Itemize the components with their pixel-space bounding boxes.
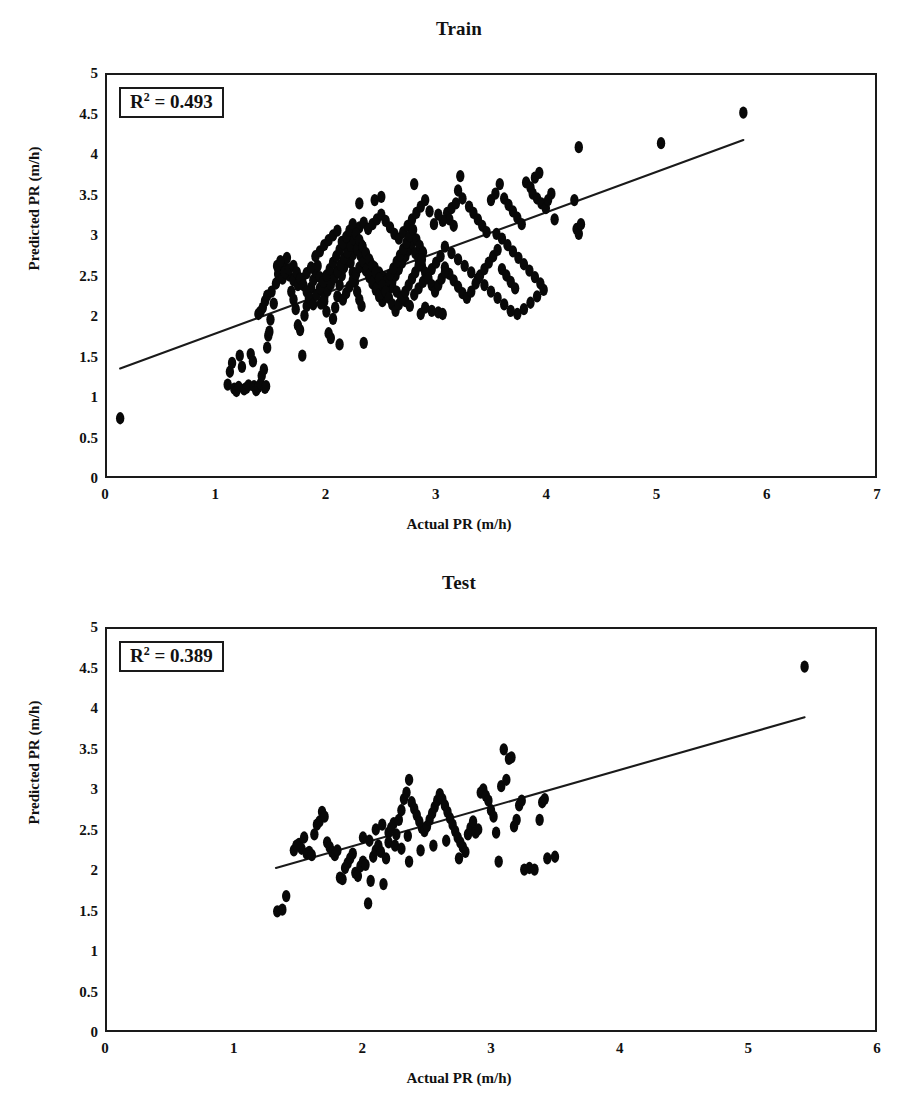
y-axis-ticks-train: 00.511.522.533.544.55 <box>58 73 98 478</box>
y-tick-label: 5 <box>91 619 99 636</box>
data-point <box>570 194 578 206</box>
data-point <box>278 904 286 916</box>
data-point <box>404 830 412 842</box>
data-point <box>456 170 464 182</box>
y-tick-label: 0 <box>91 470 99 487</box>
data-point <box>436 250 444 262</box>
x-tick-label: 6 <box>873 1040 881 1057</box>
y-tick-label: 4.5 <box>79 659 98 676</box>
data-point <box>357 300 365 312</box>
data-point <box>739 107 747 119</box>
data-point <box>405 855 413 867</box>
data-point <box>544 194 552 206</box>
data-point <box>577 218 585 230</box>
data-point <box>489 811 497 823</box>
x-tick-label: 0 <box>101 486 109 503</box>
data-point <box>429 839 437 851</box>
data-point <box>307 261 315 273</box>
data-point <box>541 793 549 805</box>
data-point <box>335 338 343 350</box>
panel-title-train: Train <box>0 18 918 40</box>
data-point <box>298 350 306 362</box>
r2-value: = 0.389 <box>150 645 213 666</box>
data-point <box>500 743 508 755</box>
data-point <box>360 337 368 349</box>
x-tick-label: 4 <box>542 486 550 503</box>
x-tick-label: 2 <box>359 1040 367 1057</box>
data-point <box>228 357 236 369</box>
data-point <box>511 282 519 294</box>
scatter-canvas-test <box>107 629 875 1030</box>
data-point <box>439 308 447 320</box>
data-point <box>455 852 463 864</box>
data-point <box>355 197 363 209</box>
y-tick-label: 0.5 <box>79 983 98 1000</box>
x-axis-label-train: Actual PR (m/h) <box>0 516 918 533</box>
x-tick-label: 1 <box>212 486 220 503</box>
x-axis-ticks-test: 0123456 <box>105 1040 877 1062</box>
trend-line <box>120 140 743 369</box>
y-tick-label: 1 <box>91 389 99 406</box>
y-tick-label: 4 <box>91 700 99 717</box>
data-point <box>535 167 543 179</box>
panel-title-test: Test <box>0 572 918 594</box>
y-tick-label: 4.5 <box>79 105 98 122</box>
data-point <box>329 313 337 325</box>
r2-symbol: R <box>130 91 144 112</box>
data-point <box>292 839 300 851</box>
data-point <box>327 332 335 344</box>
data-point <box>397 843 405 855</box>
y-tick-label: 1 <box>91 943 99 960</box>
y-tick-label: 2.5 <box>79 821 98 838</box>
data-point <box>397 804 405 816</box>
x-tick-label: 0 <box>101 1040 109 1057</box>
data-point <box>116 412 124 424</box>
data-point <box>265 325 273 337</box>
data-point <box>575 141 583 153</box>
y-tick-label: 3.5 <box>79 740 98 757</box>
data-point <box>364 897 372 909</box>
data-point <box>402 786 410 798</box>
data-point <box>249 355 257 367</box>
data-point <box>502 774 510 786</box>
data-point <box>365 835 373 847</box>
data-point <box>493 244 501 256</box>
y-tick-label: 2 <box>91 308 99 325</box>
data-point <box>543 852 551 864</box>
y-tick-label: 0.5 <box>79 429 98 446</box>
trend-line <box>276 717 805 868</box>
panel-test: Test 00.511.522.533.544.55 0123456 R2 = … <box>0 554 918 1108</box>
data-point <box>276 255 284 267</box>
y-tick-label: 1.5 <box>79 348 98 365</box>
y-tick-label: 0 <box>91 1024 99 1041</box>
r2-value: = 0.493 <box>150 91 213 112</box>
data-point <box>452 197 460 209</box>
data-point <box>405 774 413 786</box>
x-axis-label-test: Actual PR (m/h) <box>0 1070 918 1087</box>
y-tick-label: 3 <box>91 227 99 244</box>
data-point <box>512 814 520 826</box>
y-axis-label-test: Predicted PR (m/h) <box>26 633 43 893</box>
y-tick-label: 1.5 <box>79 902 98 919</box>
data-point <box>657 137 665 149</box>
x-tick-label: 7 <box>873 486 881 503</box>
y-tick-label: 3 <box>91 781 99 798</box>
data-point <box>507 751 515 763</box>
data-point <box>300 831 308 843</box>
y-tick-label: 4 <box>91 146 99 163</box>
x-tick-label: 3 <box>432 486 440 503</box>
scatter-figure: Train 00.511.522.533.544.55 01234567 R2 … <box>0 0 918 1108</box>
data-point <box>338 873 346 885</box>
data-point <box>260 363 268 375</box>
data-point <box>535 814 543 826</box>
x-tick-label: 3 <box>487 1040 495 1057</box>
data-point <box>238 361 246 373</box>
r2-annotation-test: R2 = 0.389 <box>119 641 224 672</box>
data-point <box>442 835 450 847</box>
plot-area-test: R2 = 0.389 <box>105 627 877 1032</box>
x-tick-label: 6 <box>763 486 771 503</box>
data-point <box>518 218 526 230</box>
data-point <box>349 847 357 859</box>
data-point <box>331 301 339 313</box>
x-axis-ticks-train: 01234567 <box>105 486 877 508</box>
